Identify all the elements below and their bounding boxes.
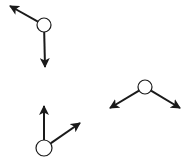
node-bottom-left [36, 106, 80, 156]
node-top-left [10, 6, 51, 67]
node-circle-icon [36, 140, 52, 156]
vector-diagram [0, 0, 192, 160]
arrow-down-right-icon [151, 91, 180, 108]
arrow-down-icon [44, 32, 45, 67]
nodes-layer [10, 6, 180, 156]
node-circle-icon [138, 80, 152, 94]
arrow-up-right-icon [51, 123, 80, 143]
arrow-up-left-icon [10, 6, 38, 22]
arrow-down-left-icon [110, 91, 139, 108]
node-circle-icon [37, 18, 51, 32]
node-right [110, 80, 180, 108]
